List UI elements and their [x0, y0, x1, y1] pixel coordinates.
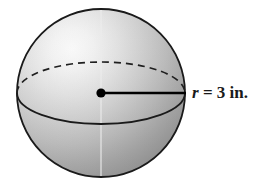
radius-label: r = 3 in. — [192, 84, 248, 101]
radius-variable-symbol: r — [192, 83, 199, 102]
center-point-dot — [96, 88, 105, 97]
sphere-figure: r = 3 in. — [0, 0, 265, 185]
radius-value-text: = 3 in. — [199, 83, 248, 102]
